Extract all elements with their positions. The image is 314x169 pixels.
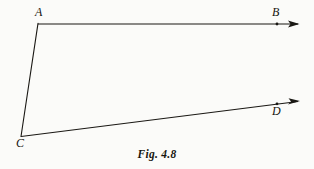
figure-page: A B C D Fig. 4.8 <box>0 0 314 169</box>
line-ac <box>21 23 38 136</box>
segment-ac <box>21 23 38 136</box>
line-cd <box>21 102 298 137</box>
vertex-label-a: A <box>35 6 42 18</box>
ray-ab <box>38 21 300 28</box>
vertex-label-d: D <box>272 105 281 117</box>
vertex-label-b: B <box>272 6 279 18</box>
geometry-diagram <box>0 0 314 169</box>
figure-caption: Fig. 4.8 <box>0 148 314 161</box>
point-marker-b <box>276 23 279 26</box>
arrowhead-d <box>288 98 300 104</box>
ray-cd <box>21 98 300 136</box>
